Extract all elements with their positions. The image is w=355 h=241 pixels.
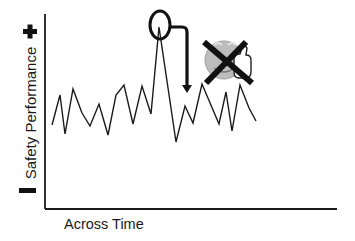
chart (0, 0, 355, 241)
arrow-down-icon (171, 27, 192, 93)
minus-icon (19, 188, 36, 193)
x-axis-label: Across Time (64, 216, 144, 232)
y-axis-label: Safety Performance (22, 47, 39, 180)
plus-icon (23, 25, 37, 39)
